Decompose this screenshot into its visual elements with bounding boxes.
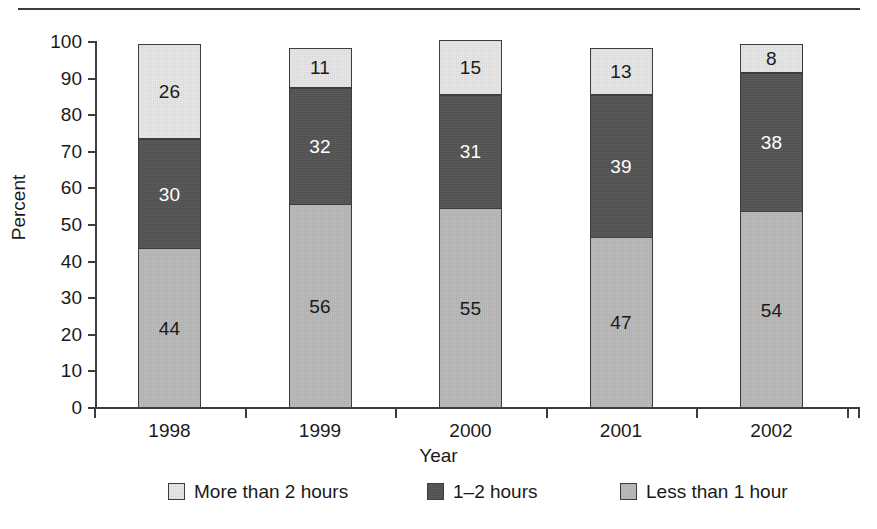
bar-segment-value-label: 32 [309,137,331,156]
y-axis-tick-label: 60 [38,178,82,197]
bar-1998: 263044 [138,44,201,408]
x-axis-tick [546,409,548,418]
bar-segment-value-label: 38 [761,133,783,152]
bar-segment-value-label: 15 [460,58,482,77]
x-axis-tick-label: 2000 [411,420,531,442]
y-axis-tick-label: 10 [38,361,82,380]
bar-2001: 133947 [590,48,653,408]
bar-segment-value-label: 30 [159,185,181,204]
y-axis-tick-label: 0 [38,398,82,417]
legend-item-label: More than 2 hours [194,482,348,501]
bar-segment-value-label: 44 [159,319,181,338]
bar-segment: 32 [289,88,352,205]
x-axis-title: Year [0,446,877,466]
bar-segment-value-label: 8 [766,49,777,68]
bar-segment-value-label: 39 [610,157,632,176]
legend-item-label: Less than 1 hour [646,482,788,501]
chart-figure: Percent 1009080706050403020100 263044113… [0,0,877,529]
legend-item-label: 1–2 hours [453,482,538,501]
y-axis-title: Percent [9,168,28,248]
bar-segment: 38 [740,73,803,212]
bar-segment: 11 [289,48,352,88]
bar-segment: 47 [590,237,653,409]
bar-2002: 83854 [740,44,803,408]
bar-segment: 31 [439,95,502,208]
bar-segment-value-label: 55 [460,299,482,318]
y-axis-tick-label: 100 [38,32,82,51]
x-axis-tick [847,409,849,418]
x-axis-tick-label: 2002 [712,420,832,442]
bar-segment: 13 [590,48,653,96]
y-axis-tick-label: 90 [38,69,82,88]
y-axis-tick-label: 80 [38,105,82,124]
x-axis-line [95,407,860,409]
legend-swatch-icon [427,483,444,500]
bar-segment-value-label: 54 [761,301,783,320]
bar-2000: 153155 [439,40,502,408]
bar-segment: 15 [439,40,502,95]
plot-area: 26304411325615315513394783854 [95,42,860,408]
bar-segment-value-label: 31 [460,142,482,161]
x-axis-end-tick [858,409,860,418]
bar-segment-value-label: 26 [159,82,181,101]
x-axis-tick [245,409,247,418]
y-axis-tick-label: 30 [38,288,82,307]
legend-item[interactable]: 1–2 hours [427,479,538,503]
chart-legend: More than 2 hours1–2 hoursLess than 1 ho… [0,479,877,509]
bar-segment-value-label: 56 [309,297,331,316]
bar-segment: 39 [590,95,653,238]
x-axis-tick-label: 1999 [260,420,380,442]
y-axis-tick-label: 40 [38,252,82,271]
x-axis-tick-label: 1998 [110,420,230,442]
bar-segment: 54 [740,211,803,409]
legend-swatch-icon [620,483,637,500]
x-axis-tick [94,409,96,418]
x-axis-tick [395,409,397,418]
bar-segment: 44 [138,248,201,409]
y-axis-tick-label: 50 [38,215,82,234]
x-axis-tick [696,409,698,418]
bar-segment-value-label: 13 [610,62,632,81]
legend-swatch-icon [168,483,185,500]
bar-segment: 56 [289,204,352,409]
bar-segment-value-label: 47 [610,313,632,332]
bar-1999: 113256 [289,48,352,408]
bar-segment: 30 [138,139,201,249]
bar-segment-value-label: 11 [310,58,330,77]
y-axis-tick-label: 70 [38,142,82,161]
legend-item[interactable]: More than 2 hours [168,479,348,503]
legend-item[interactable]: Less than 1 hour [620,479,788,503]
y-axis-tick-label: 20 [38,325,82,344]
bar-segment: 55 [439,208,502,409]
bar-segment: 8 [740,44,803,73]
top-horizontal-rule [18,8,860,10]
x-axis-tick-label: 2001 [561,420,681,442]
bar-segment: 26 [138,44,201,139]
